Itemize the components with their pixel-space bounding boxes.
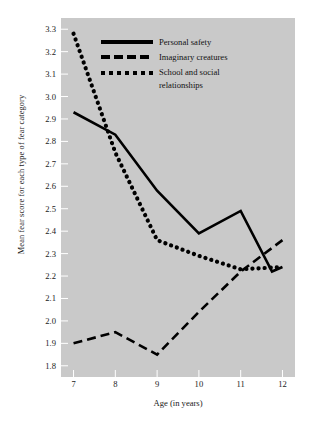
y-axis-title: Mean fear score for each type of fear ca… [17, 25, 26, 325]
y-tick-mark [61, 298, 68, 299]
y-tick-mark [61, 208, 68, 209]
x-axis-title: Age (in years) [61, 398, 295, 408]
y-tick-mark [61, 320, 68, 321]
legend-label: School and social relationships [159, 66, 254, 92]
y-tick-mark [61, 186, 68, 187]
y-tick-mark [61, 118, 68, 119]
x-tick-label: 9 [142, 379, 172, 389]
y-tick-label: 3.1 [7, 69, 61, 79]
y-tick-label: 2.8 [7, 136, 61, 146]
x-tick-mark [157, 370, 158, 377]
legend-item-imaginary-creatures: Imaginary creatures [101, 51, 251, 66]
y-tick-mark [61, 74, 68, 75]
y-tick-label: 2.6 [7, 181, 61, 191]
y-tick-mark [61, 276, 68, 277]
y-tick-label: 2.2 [7, 271, 61, 281]
y-tick-mark [61, 51, 68, 52]
y-tick-label: 3.0 [7, 92, 61, 102]
y-tick-mark [61, 231, 68, 232]
y-tick-label: 2.1 [7, 293, 61, 303]
figure-container: 1.81.92.02.12.22.32.42.52.62.72.82.93.03… [0, 0, 312, 421]
y-tick-label: 1.9 [7, 338, 61, 348]
legend-item-school-and-social: School and social relationships [101, 66, 251, 92]
x-tick-mark [282, 370, 283, 377]
legend-line-sample-dotted [101, 71, 153, 75]
x-tick-label: 8 [100, 379, 130, 389]
legend-item-personal-safety: Personal safety [101, 36, 251, 51]
chart-legend: Personal safety Imaginary creatures Scho… [101, 36, 251, 92]
y-tick-mark [61, 96, 68, 97]
x-tick-mark [240, 370, 241, 377]
y-tick-mark [61, 343, 68, 344]
y-tick-label: 2.7 [7, 159, 61, 169]
y-tick-mark [61, 365, 68, 366]
legend-line-sample-solid [101, 40, 153, 44]
x-tick-mark [198, 370, 199, 377]
y-tick-label: 2.4 [7, 226, 61, 236]
x-tick-mark [115, 370, 116, 377]
series-line-dashed [74, 240, 283, 354]
y-tick-label: 2.9 [7, 114, 61, 124]
legend-line-sample-dashed [101, 55, 153, 59]
x-tick-mark [73, 370, 74, 377]
y-tick-label: 1.8 [7, 361, 61, 371]
y-tick-mark [61, 29, 68, 30]
y-tick-label: 2.0 [7, 316, 61, 326]
y-tick-mark [61, 141, 68, 142]
x-tick-label: 10 [184, 379, 214, 389]
y-tick-label: 2.3 [7, 249, 61, 259]
x-tick-label: 12 [267, 379, 297, 389]
legend-label: Personal safety [159, 36, 211, 49]
y-tick-label: 2.5 [7, 204, 61, 214]
x-tick-label: 11 [226, 379, 256, 389]
y-tick-mark [61, 163, 68, 164]
y-tick-label: 3.2 [7, 47, 61, 57]
x-tick-label: 7 [59, 379, 89, 389]
y-tick-label: 3.3 [7, 24, 61, 34]
y-tick-mark [61, 253, 68, 254]
legend-label: Imaginary creatures [159, 51, 227, 64]
